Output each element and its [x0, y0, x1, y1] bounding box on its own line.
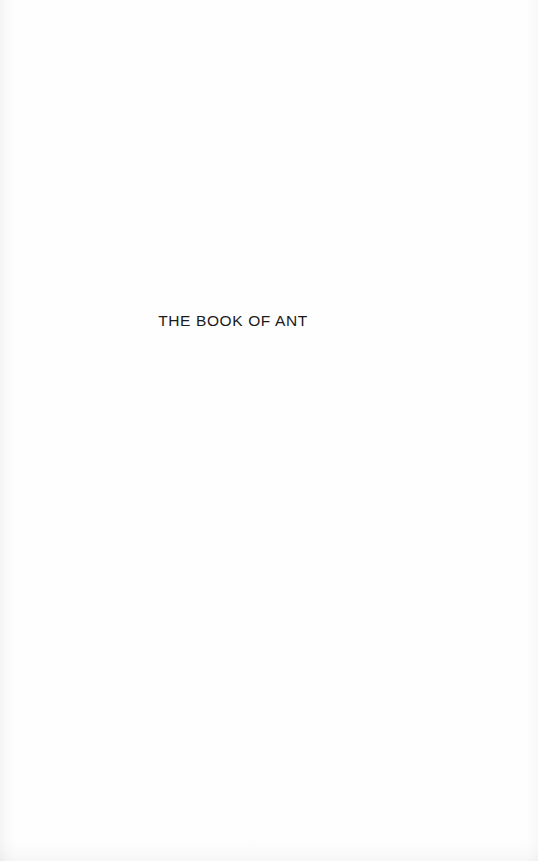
scanned-book-page: THE BOOK OF ANT [0, 0, 538, 861]
half-title-block: THE BOOK OF ANT [0, 312, 538, 330]
scan-noise-bottom-edge [0, 839, 538, 861]
page-title: THE BOOK OF ANT [158, 312, 308, 330]
scan-noise-right-edge [526, 0, 538, 861]
scan-gutter-shadow [0, 0, 16, 861]
